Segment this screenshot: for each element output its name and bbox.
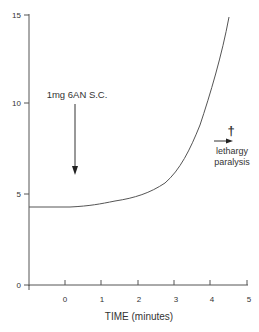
x-tick-label: 0 <box>63 295 68 304</box>
y-tick-label: 10 <box>12 99 21 108</box>
y-tick-label: 0 <box>17 281 22 290</box>
data-curve <box>29 17 229 207</box>
x-tick-label: 1 <box>100 295 105 304</box>
x-tick-label: 4 <box>210 295 215 304</box>
y-tick-label: 15 <box>12 11 21 20</box>
x-tick-labels: 0 1 2 3 4 5 <box>63 295 252 304</box>
lethargy-label: lethargy <box>216 146 249 156</box>
x-tick-label: 3 <box>174 295 179 304</box>
x-axis-label: TIME (minutes) <box>105 311 173 322</box>
injection-annotation: 1mg 6AN S.C. <box>47 89 108 100</box>
down-arrow-icon <box>72 166 78 175</box>
y-ticks <box>24 15 29 285</box>
y-tick-labels: 15 10 5 0 <box>12 11 21 290</box>
right-arrow-icon <box>226 139 233 144</box>
x-tick-label: 5 <box>247 295 252 304</box>
y-tick-label: 5 <box>17 190 22 199</box>
x-tick-label: 2 <box>137 295 142 304</box>
line-chart: 15 10 5 0 0 1 2 3 4 5 TIME (minutes) 1mg… <box>0 0 259 332</box>
dagger-icon: † <box>227 123 234 138</box>
paralysis-label: paralysis <box>214 157 250 167</box>
